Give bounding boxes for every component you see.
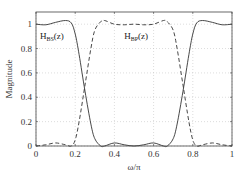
y-tick-label: 0.6 (21, 68, 33, 78)
y-tick-label: 0.8 (21, 44, 33, 54)
y-tick-label: 0.2 (21, 117, 32, 127)
grid-lines (36, 12, 232, 146)
x-axis-label: ω/π (128, 162, 141, 172)
x-tick-label: 0.6 (148, 149, 160, 159)
series-annotation: HBS(z) (40, 31, 64, 42)
y-tick-label: 1 (28, 19, 33, 29)
x-tick-label: 0.8 (187, 149, 199, 159)
y-axis-label: Magnitude (4, 60, 14, 99)
y-tick-label: 0.4 (21, 92, 33, 102)
plot-frame (36, 12, 232, 146)
x-tick-label: 0.2 (70, 149, 81, 159)
series-annotation: HBP(z) (124, 31, 148, 42)
x-tick-label: 0.4 (109, 149, 121, 159)
y-tick-label: 0 (28, 141, 33, 151)
magnitude-chart: 00.20.40.60.8100.20.40.60.81 HBS(z)HBP(z… (0, 0, 244, 175)
x-tick-label: 1 (230, 149, 235, 159)
x-tick-label: 0 (34, 149, 39, 159)
